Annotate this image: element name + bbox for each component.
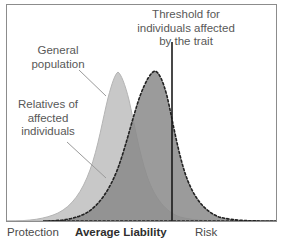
leader-line-general [79, 70, 106, 96]
axis-label-protection: Protection [7, 226, 59, 238]
threshold-annotation: Threshold for individuals affected by th… [118, 8, 254, 49]
axis-label-average-liability: Average Liability [75, 226, 167, 238]
axis-label-risk: Risk [195, 226, 217, 238]
relatives-annotation: Relatives of affected individuals [6, 98, 90, 139]
general-population-annotation: General population [18, 44, 98, 71]
liability-threshold-figure: Threshold for individuals affected by th… [0, 0, 283, 244]
